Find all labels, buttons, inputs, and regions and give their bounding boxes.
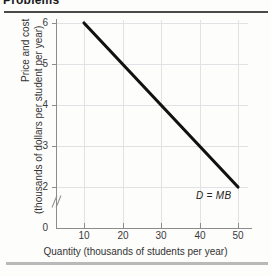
x-axis-tick [238, 223, 239, 228]
y-axis-tick [52, 23, 57, 24]
gridline-vertical [238, 20, 239, 228]
gridline-horizontal [56, 187, 248, 188]
x-axis-title: Quantity (thousands of students per year… [0, 246, 271, 257]
x-axis-tick [123, 223, 124, 228]
x-axis-tick [161, 223, 162, 228]
x-axis-tick-label: 10 [72, 230, 96, 241]
curve-label-d-mb: D = MB [196, 190, 231, 201]
y-axis-title-line1: Price and cost [20, 19, 31, 82]
axis-break-icon [50, 194, 63, 210]
gridline-vertical [123, 20, 124, 228]
x-axis-tick-label: 50 [226, 230, 250, 241]
x-axis-tick [200, 223, 201, 228]
footer-rule [6, 262, 268, 265]
gridline-horizontal [56, 23, 248, 24]
gridline-horizontal [56, 105, 248, 106]
gridline-vertical [161, 20, 162, 228]
x-axis-tick-label: 40 [188, 230, 212, 241]
gridline-horizontal [56, 64, 248, 65]
figure-page: Problems 6 5 4 3 2 0 [0, 0, 271, 276]
x-axis-tick-label: 20 [111, 230, 135, 241]
y-axis-tick [52, 105, 57, 106]
y-axis-tick-label-zero: 0 [28, 222, 48, 233]
gridline-vertical [84, 20, 85, 228]
y-axis-tick [52, 187, 57, 188]
y-axis-tick [52, 146, 57, 147]
y-axis-title-line2: (thousands of dollars per student per ye… [33, 26, 44, 214]
x-axis-tick [84, 223, 85, 228]
x-axis-tick-label: 30 [149, 230, 173, 241]
x-axis-line [56, 228, 252, 229]
gridline-horizontal [56, 146, 248, 147]
y-axis-tick [52, 64, 57, 65]
